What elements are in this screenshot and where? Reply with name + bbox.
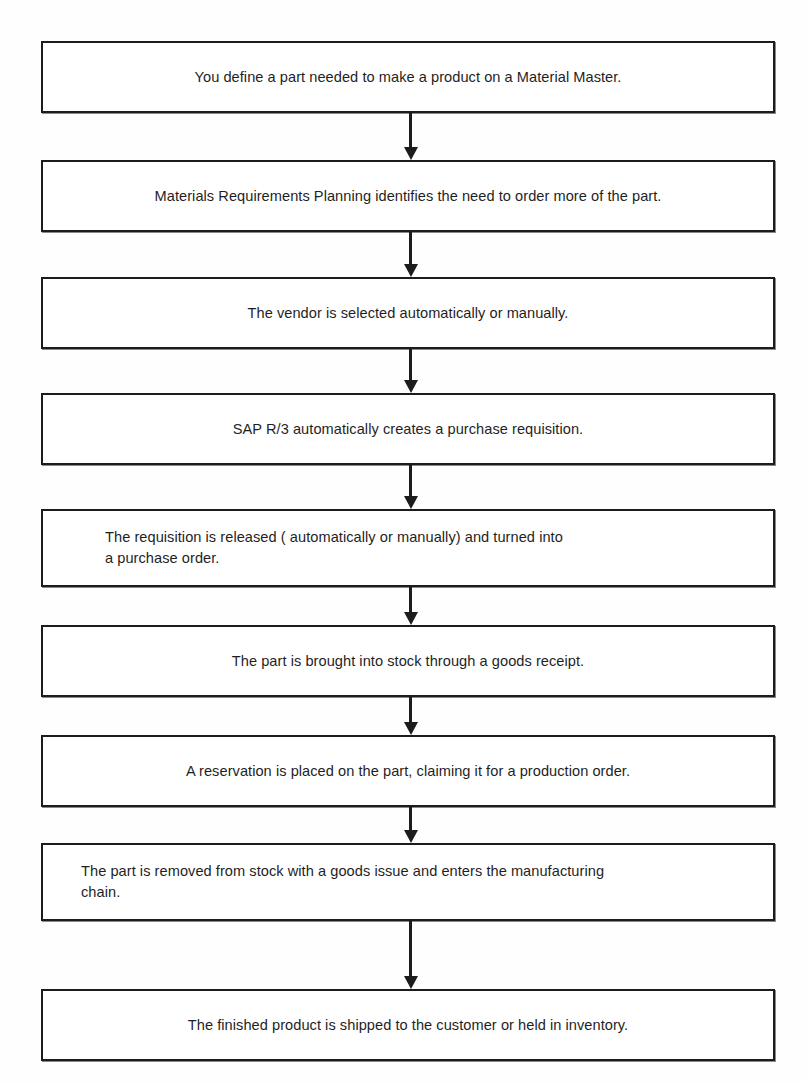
down-arrow-icon-1 bbox=[404, 113, 418, 160]
flow-node-6: The part is brought into stock through a… bbox=[41, 625, 775, 697]
arrow-shaft bbox=[409, 587, 412, 612]
arrow-head bbox=[404, 264, 418, 277]
arrow-head bbox=[404, 612, 418, 625]
arrow-head bbox=[404, 976, 418, 989]
arrow-head bbox=[404, 380, 418, 393]
down-arrow-icon-4 bbox=[404, 465, 418, 509]
flow-node-5-label: The requisition is released ( automatica… bbox=[43, 527, 603, 569]
arrow-head bbox=[404, 496, 418, 509]
down-arrow-icon-5 bbox=[404, 587, 418, 625]
flow-node-4: SAP R/3 automatically creates a purchase… bbox=[41, 393, 775, 465]
flowchart-canvas: You define a part needed to make a produ… bbox=[0, 0, 807, 1083]
flow-node-3: The vendor is selected automatically or … bbox=[41, 277, 775, 349]
flow-node-5: The requisition is released ( automatica… bbox=[41, 509, 775, 587]
flow-node-8: The part is removed from stock with a go… bbox=[41, 843, 775, 921]
arrow-head bbox=[404, 830, 418, 843]
arrow-shaft bbox=[409, 697, 412, 722]
flow-node-6-label: The part is brought into stock through a… bbox=[204, 651, 612, 672]
down-arrow-icon-7 bbox=[404, 807, 418, 843]
flow-node-4-label: SAP R/3 automatically creates a purchase… bbox=[205, 419, 611, 440]
down-arrow-icon-8 bbox=[404, 921, 418, 989]
down-arrow-icon-3 bbox=[404, 349, 418, 393]
arrow-shaft bbox=[409, 349, 412, 380]
flow-node-9-label: The finished product is shipped to the c… bbox=[160, 1015, 656, 1036]
arrow-shaft bbox=[409, 807, 412, 830]
arrow-head bbox=[404, 722, 418, 735]
flow-node-7-label: A reservation is placed on the part, cla… bbox=[158, 761, 658, 782]
arrow-shaft bbox=[409, 465, 412, 496]
flow-node-1: You define a part needed to make a produ… bbox=[41, 41, 775, 113]
flow-node-2: Materials Requirements Planning identifi… bbox=[41, 160, 775, 232]
flow-node-8-label: The part is removed from stock with a go… bbox=[43, 861, 634, 903]
arrow-shaft bbox=[409, 921, 412, 976]
flow-node-1-label: You define a part needed to make a produ… bbox=[167, 67, 650, 88]
arrow-shaft bbox=[409, 232, 412, 264]
flow-node-7: A reservation is placed on the part, cla… bbox=[41, 735, 775, 807]
flow-node-9: The finished product is shipped to the c… bbox=[41, 989, 775, 1061]
down-arrow-icon-6 bbox=[404, 697, 418, 735]
flow-node-2-label: Materials Requirements Planning identifi… bbox=[127, 186, 690, 207]
arrow-head bbox=[404, 147, 418, 160]
flow-node-3-label: The vendor is selected automatically or … bbox=[220, 303, 597, 324]
down-arrow-icon-2 bbox=[404, 232, 418, 277]
arrow-shaft bbox=[409, 113, 412, 147]
